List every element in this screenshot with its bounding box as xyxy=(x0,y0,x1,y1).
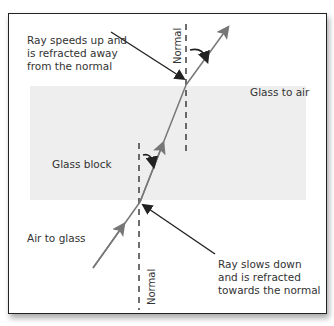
normal-label-bottom: Normal xyxy=(146,269,157,305)
label-glass-block: Glass block xyxy=(52,158,112,171)
label-slows-down: Ray slows down and is refracted towards … xyxy=(218,258,321,297)
label-air-to-glass: Air to glass xyxy=(27,232,86,245)
normal-label-top: Normal xyxy=(172,28,183,64)
label-glass-to-air: Glass to air xyxy=(250,86,309,99)
label-speeds-up: Ray speeds up and is refracted away from… xyxy=(27,34,127,73)
